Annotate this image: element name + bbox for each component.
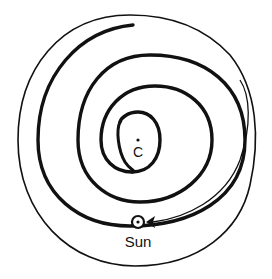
sun-marker-dot: [136, 220, 139, 223]
sun-trail-line: [153, 80, 248, 222]
spiral-diagram: C Sun: [0, 0, 272, 279]
sun-label: Sun: [125, 233, 152, 250]
spiral-inner-link: [118, 122, 134, 172]
center-label: C: [133, 144, 143, 160]
center-dot: [136, 138, 139, 141]
